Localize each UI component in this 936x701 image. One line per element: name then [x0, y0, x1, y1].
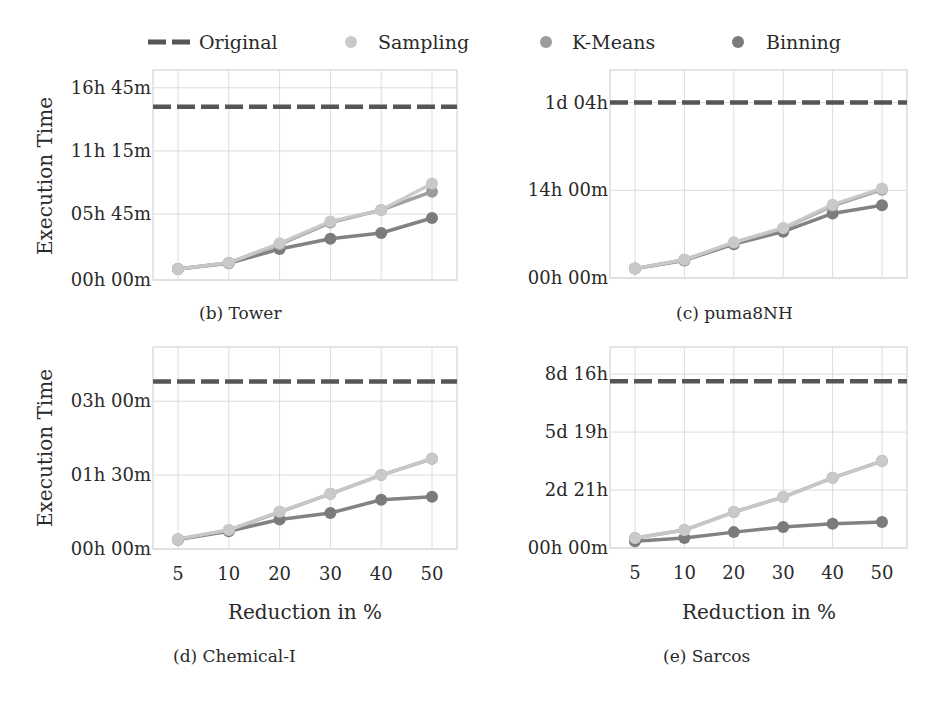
data-point	[426, 212, 438, 224]
data-point	[777, 521, 789, 533]
y-tick-label: 2d 21h	[545, 479, 609, 500]
x-tick-label: 10	[673, 562, 696, 583]
legend-label: Binning	[766, 31, 841, 53]
x-axis-label-sarcos: Reduction in %	[682, 600, 836, 624]
y-tick-label: 01h 30m	[71, 464, 151, 485]
y-tick-label: 00h 00m	[528, 267, 608, 288]
plot-area	[610, 347, 907, 548]
caption-puma8nh: (c) puma8NH	[676, 303, 793, 323]
data-point	[876, 182, 888, 194]
data-point	[324, 233, 336, 245]
data-point	[375, 227, 387, 239]
legend-label: K-Means	[572, 31, 655, 53]
y-tick-label: 5d 19h	[545, 421, 609, 442]
data-point	[223, 257, 235, 269]
data-point	[827, 199, 839, 211]
y-tick-label: 11h 15m	[71, 140, 151, 161]
plot-area	[153, 70, 457, 280]
chart-puma8nh: 00h 00m14h 00m1d 04h	[528, 70, 907, 288]
plot-area	[153, 347, 457, 549]
data-point	[728, 526, 740, 538]
y-tick-label: 05h 45m	[71, 203, 151, 224]
x-tick-label: 40	[821, 562, 844, 583]
data-point	[324, 215, 336, 227]
data-point	[827, 518, 839, 530]
data-point	[426, 178, 438, 190]
y-axis-label-bottom: Execution Time	[33, 369, 57, 527]
y-tick-label: 00h 00m	[71, 538, 151, 559]
legend-item-sampling: Sampling	[345, 31, 469, 53]
y-axis-label-top: Execution Time	[33, 97, 57, 255]
data-point	[678, 254, 690, 266]
y-tick-label: 00h 00m	[71, 269, 151, 290]
x-tick-label: 40	[370, 563, 393, 584]
data-point	[876, 516, 888, 528]
data-point	[274, 237, 286, 249]
chart-sarcos: 5102030405000h 00m2d 21h5d 19h8d 16h	[528, 347, 907, 583]
x-axis-label-chemical: Reduction in %	[228, 600, 382, 624]
data-point	[223, 524, 235, 536]
x-tick-label: 30	[772, 562, 795, 583]
y-tick-label: 16h 45m	[71, 77, 151, 98]
data-point	[728, 506, 740, 518]
data-point	[876, 199, 888, 211]
chart-chemical-i: 5102030405000h 00m01h 30m03h 00m	[71, 347, 457, 584]
data-point	[678, 524, 690, 536]
marker-icon	[732, 36, 744, 48]
caption-sarcos: (e) Sarcos	[663, 646, 750, 666]
figure: Original Sampling K-Means Binning 00h 00…	[0, 0, 936, 701]
y-tick-label: 1d 04h	[545, 92, 609, 113]
legend-label: Original	[199, 31, 278, 53]
data-point	[324, 507, 336, 519]
y-tick-label: 14h 00m	[528, 179, 608, 200]
y-tick-label: 00h 00m	[528, 537, 608, 558]
x-tick-label: 5	[172, 563, 183, 584]
data-point	[728, 236, 740, 248]
marker-icon	[540, 36, 552, 48]
x-tick-label: 50	[421, 563, 444, 584]
legend-item-original: Original	[148, 31, 278, 53]
data-point	[375, 204, 387, 216]
data-point	[777, 222, 789, 234]
x-tick-label: 50	[871, 562, 894, 583]
legend-item-binning: Binning	[732, 31, 841, 53]
y-tick-label: 8d 16h	[545, 363, 609, 384]
legend-label: Sampling	[378, 31, 469, 53]
chart-tower: 00h 00m05h 45m11h 15m16h 45m	[71, 70, 457, 290]
data-point	[324, 488, 336, 500]
caption-tower: (b) Tower	[199, 303, 282, 323]
data-point	[876, 455, 888, 467]
legend: Original Sampling K-Means Binning	[148, 31, 841, 53]
x-tick-label: 10	[217, 563, 240, 584]
data-point	[426, 452, 438, 464]
data-point	[777, 491, 789, 503]
caption-chemical-i: (d) Chemical-I	[173, 646, 296, 666]
x-tick-label: 30	[319, 563, 342, 584]
y-tick-label: 03h 00m	[71, 390, 151, 411]
data-point	[172, 533, 184, 545]
data-point	[426, 491, 438, 503]
data-point	[375, 469, 387, 481]
data-point	[827, 472, 839, 484]
legend-item-kmeans: K-Means	[540, 31, 655, 53]
data-point	[629, 263, 641, 275]
data-point	[274, 506, 286, 518]
x-tick-label: 5	[629, 562, 640, 583]
data-point	[172, 263, 184, 275]
data-point	[629, 532, 641, 544]
x-tick-label: 20	[268, 563, 291, 584]
marker-icon	[345, 36, 357, 48]
x-tick-label: 20	[722, 562, 745, 583]
data-point	[375, 494, 387, 506]
